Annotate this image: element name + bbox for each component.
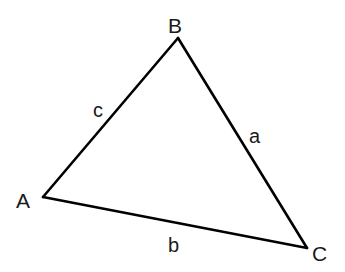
side-a-line [178, 38, 307, 248]
vertex-label-c: C [312, 242, 327, 265]
vertex-label-b: B [168, 14, 182, 37]
triangle-diagram: A B C c a b [0, 0, 345, 272]
side-c-line [43, 38, 178, 197]
side-label-a: a [249, 125, 261, 147]
side-label-c: c [93, 99, 103, 121]
side-label-b: b [168, 234, 179, 256]
vertex-label-a: A [16, 189, 30, 212]
